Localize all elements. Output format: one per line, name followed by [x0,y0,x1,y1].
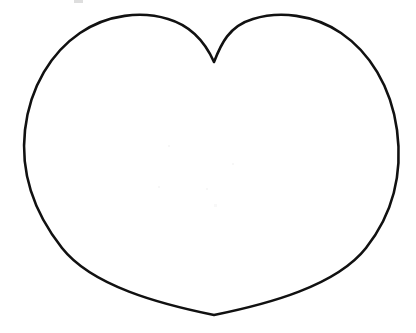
drawing-canvas [0,0,416,333]
heart-outline-svg [0,0,416,333]
